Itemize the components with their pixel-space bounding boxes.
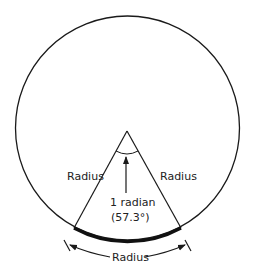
left-radius-label: Radius	[67, 170, 104, 183]
dimension-arrow-left	[70, 245, 110, 257]
dimension-tick-right	[185, 240, 191, 251]
dimension-tick-left	[64, 240, 70, 251]
dimension-arrow-right	[145, 245, 185, 257]
angle-arc	[116, 151, 138, 154]
radian-diagram: Radius Radius 1 radian (57.3°) Radius	[0, 0, 253, 272]
angle-label-line1: 1 radian	[110, 196, 156, 209]
bottom-radius-label: Radius	[112, 251, 149, 264]
angle-label-line2: (57.3°)	[111, 211, 150, 224]
right-radius-label: Radius	[160, 170, 197, 183]
